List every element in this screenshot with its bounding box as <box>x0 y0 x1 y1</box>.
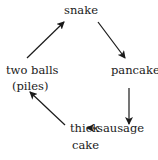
arrow-thick-cake-to-two-balls <box>30 92 65 125</box>
node-two-balls-line1: two balls <box>6 64 59 77</box>
arrow-snake-to-pancake <box>98 22 125 58</box>
node-thick-cake-line1: thick <box>70 122 99 135</box>
arrow-two-balls-to-snake <box>27 22 64 58</box>
cycle-diagram: snake pancake sausage thick cake two bal… <box>0 0 158 160</box>
node-thick-cake-line2: cake <box>72 139 99 152</box>
node-two-balls-line2: (piles) <box>12 80 48 93</box>
node-sausage: sausage <box>97 122 144 135</box>
node-snake: snake <box>64 4 98 17</box>
node-pancake: pancake <box>111 64 158 77</box>
